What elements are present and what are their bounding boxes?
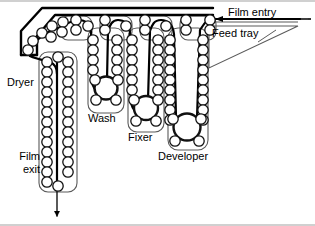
label-fixer: Fixer [128, 131, 152, 144]
label-film-entry: Film entry [228, 6, 276, 19]
label-wash: Wash [88, 112, 116, 125]
diagram-canvas: Dryer Wash Fixer Developer Film exit Fil… [0, 0, 315, 226]
developer-rollers [165, 15, 208, 146]
processor-schematic-svg [0, 0, 315, 226]
label-feed-tray: Feed tray [212, 27, 258, 40]
label-dryer: Dryer [7, 76, 34, 89]
label-film-exit: Film exit [8, 150, 40, 175]
label-developer: Developer [158, 150, 208, 163]
